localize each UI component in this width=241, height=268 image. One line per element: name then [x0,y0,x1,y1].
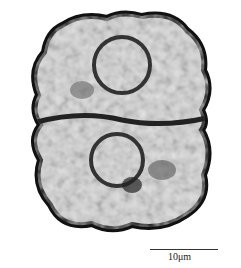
specimen [22,10,222,235]
scale-bar [150,249,218,250]
scale-bar-label: 10μm [168,251,191,262]
